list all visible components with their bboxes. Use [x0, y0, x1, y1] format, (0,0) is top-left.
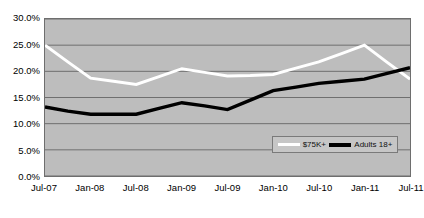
- x-tick-label: Jul-08: [123, 182, 149, 194]
- white-line-swatch: [278, 143, 300, 146]
- x-tick-label: Jan-08: [75, 182, 104, 194]
- x-tick-label: Jan-10: [259, 182, 288, 194]
- y-tick-label: 20.0%: [13, 66, 40, 76]
- x-tick-label: Jul-09: [215, 182, 241, 194]
- x-tick-label: Jul-07: [31, 182, 57, 194]
- legend-item-series-1: $75K+: [278, 140, 326, 149]
- y-tick-label: 0.0%: [18, 172, 40, 182]
- x-axis: Jul-07Jan-08Jul-08Jan-09Jul-09Jan-10Jul-…: [0, 182, 420, 198]
- y-tick-label: 10.0%: [13, 119, 40, 129]
- y-tick-label: 25.0%: [13, 40, 40, 50]
- legend-item-series-2: Adults 18+: [329, 140, 392, 149]
- y-tick-label: 30.0%: [13, 13, 40, 23]
- x-tick-label: Jan-11: [351, 182, 379, 194]
- y-tick-label: 5.0%: [18, 146, 40, 156]
- x-tick-label: Jul-11: [398, 182, 423, 194]
- x-tick-label: Jan-09: [167, 182, 196, 194]
- chart-legend: $75K+ Adults 18+: [272, 136, 398, 153]
- legend-label-series-1: $75K+: [303, 140, 326, 149]
- plot-area: [44, 18, 411, 177]
- black-line-swatch: [329, 143, 351, 147]
- legend-label-series-2: Adults 18+: [354, 140, 392, 149]
- y-tick-label: 15.0%: [13, 93, 40, 103]
- x-tick-label: Jul-10: [306, 182, 332, 194]
